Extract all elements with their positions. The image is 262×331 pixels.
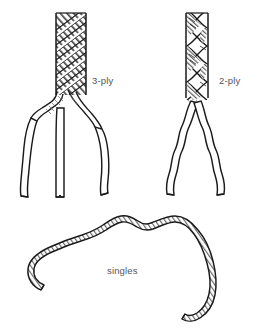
singles-label: singles: [107, 265, 138, 276]
diagram-canvas: 3-ply: [0, 0, 262, 331]
two-ply-label: 2-ply: [219, 75, 240, 86]
two-ply-rope-body: [186, 10, 208, 101]
three-ply-strand-center: [56, 108, 64, 197]
three-ply-label: 3-ply: [92, 75, 113, 86]
diagram-background: [0, 0, 262, 331]
rope-ply-diagram: 3-ply: [0, 0, 262, 331]
